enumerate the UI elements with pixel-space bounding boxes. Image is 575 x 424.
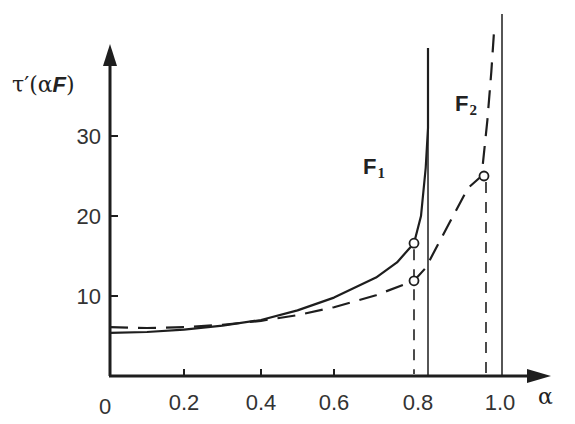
- marked-point-circle-icon: [480, 172, 489, 181]
- series-label-f1: F1: [363, 154, 385, 181]
- y-axis-title: τ′(αF): [12, 72, 75, 97]
- series-group: [110, 14, 502, 376]
- y-tick-label: 20: [77, 204, 101, 229]
- series-f1-line: [110, 48, 428, 333]
- marked-point-circle-icon: [410, 239, 419, 248]
- y-tick-label: 30: [77, 124, 101, 149]
- x-tick-label: 0: [99, 394, 111, 419]
- labels-group: τ′(αF) F1 F2 α: [12, 72, 553, 409]
- axes: 10203000.20.40.60.81.0: [77, 44, 551, 419]
- chart: 10203000.20.40.60.81.0 τ′(αF) F1 F2 α: [0, 0, 575, 424]
- marked-point-circle-icon: [410, 276, 419, 285]
- y-axis-arrow-icon: [103, 44, 117, 66]
- x-tick-label: 1.0: [485, 390, 516, 415]
- series-label-f2: F2: [455, 91, 477, 118]
- x-axis-arrow-icon: [527, 369, 551, 383]
- x-tick-label: 0.8: [403, 390, 434, 415]
- series-f2-line: [110, 32, 494, 328]
- x-tick-label: 0.2: [169, 390, 200, 415]
- x-tick-label: 0.6: [319, 390, 350, 415]
- x-axis-title: α: [538, 384, 553, 409]
- y-tick-label: 10: [77, 284, 101, 309]
- x-tick-label: 0.4: [246, 390, 277, 415]
